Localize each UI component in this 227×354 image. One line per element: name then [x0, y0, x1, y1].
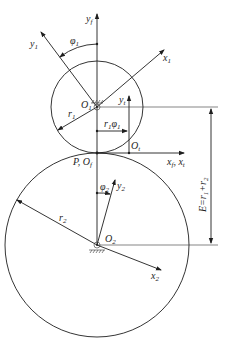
y1-axis	[41, 32, 97, 107]
gear-coordinate-diagram: yf y1 φ1 x1 O1 r1 yt r1φ1 Ot P, Of xf, x…	[0, 0, 227, 354]
label-phi1: φ1	[70, 35, 79, 48]
label-y1: y1	[29, 38, 38, 51]
label-r1phi1: r1φ1	[104, 118, 120, 131]
label-e: E=r1+r2	[197, 177, 210, 213]
label-p-of: P, Of	[72, 156, 93, 169]
label-phi2: φ2	[100, 181, 110, 194]
label-x2: x2	[150, 270, 159, 283]
label-yt: yt	[118, 94, 126, 107]
label-o1: O1	[81, 99, 92, 112]
label-xf-xt: xf, xt	[166, 156, 186, 169]
label-y2: y2	[116, 180, 125, 193]
x1-axis	[97, 50, 164, 107]
label-ot: Ot	[131, 140, 141, 153]
label-r2: r2	[59, 212, 67, 225]
label-x1: x1	[162, 52, 171, 65]
x2-axis	[97, 245, 161, 270]
label-r1: r1	[68, 108, 75, 121]
r2-radius	[17, 200, 97, 245]
label-yf: yf	[85, 13, 93, 26]
label-o2: O2	[105, 233, 116, 246]
